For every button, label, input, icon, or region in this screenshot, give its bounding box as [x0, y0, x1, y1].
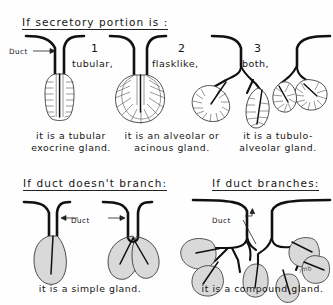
alveolus-body: [115, 75, 165, 124]
top-diagrams: [0, 0, 333, 130]
tubule-body: [45, 74, 74, 121]
gland-simple-branched: [103, 202, 159, 279]
tubule-centre: [246, 88, 269, 128]
duct-arrow-top: [33, 49, 55, 54]
gland-alveolar: [110, 36, 166, 124]
caption-simple-gland: it is a simple gland.: [20, 283, 160, 295]
caption-compound-gland: it is a compound gland.: [190, 283, 333, 295]
acinus-compound-1: [181, 238, 216, 269]
diagram-sheet: If secretory portion is : Duct 1 tubular…: [0, 0, 333, 305]
caption-alveolar-line1: it is an alveolar or: [116, 130, 228, 142]
heading-duct-does-not-branch: If duct doesn't branch:: [23, 177, 167, 191]
caption-tubular-line1: it is a tubular: [18, 130, 124, 142]
caption-tubular: it is a tubular exocrine gland.: [18, 130, 124, 154]
heading-duct-branches: If duct branches:: [212, 177, 319, 191]
acinus-right: [295, 80, 327, 111]
gland-tubulo-alveolar: [192, 36, 330, 128]
acinus-lower-left: [192, 82, 230, 122]
caption-tubulo-alveolar-line2: alveolar gland.: [226, 142, 330, 154]
duct-arrows-simple: [61, 216, 125, 221]
acinus-lower-right: [273, 82, 297, 112]
acinus-simple: [34, 236, 66, 284]
gland-tubular: [26, 36, 84, 121]
caption-alveolar-line2: acinous gland.: [116, 142, 228, 154]
caption-tubulo-alveolar: it is a tubulo- alveolar gland.: [226, 130, 330, 154]
caption-tubulo-alveolar-line1: it is a tubulo-: [226, 130, 330, 142]
caption-alveolar: it is an alveolar or acinous gland.: [116, 130, 228, 154]
gland-simple-single: [24, 202, 70, 284]
caption-tubular-line2: exocrine gland.: [18, 142, 124, 154]
